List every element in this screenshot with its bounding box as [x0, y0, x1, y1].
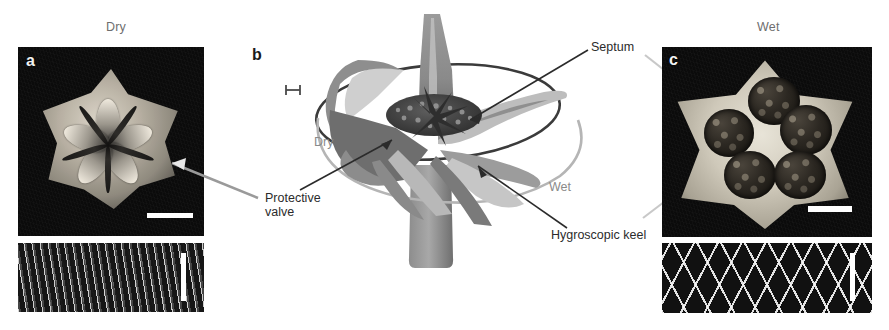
arm-upper-right-shadow — [438, 100, 548, 140]
seed-cluster — [386, 94, 482, 136]
arm-lower-right — [440, 150, 541, 188]
hygroscopic-keel-right — [446, 158, 524, 208]
diagram-state-label-dry: Dry — [314, 135, 333, 149]
seed-speckles — [396, 102, 472, 129]
diagram-scale-bar — [286, 85, 300, 95]
seed-pod — [704, 109, 754, 157]
arrowhead-hygroscopic-keel — [478, 166, 487, 178]
panel-c-photograph: c — [662, 47, 872, 237]
central-column — [418, 14, 455, 132]
column-title-dry: Dry — [106, 20, 126, 34]
valve-left-highlight — [340, 150, 398, 186]
arm-upper-right — [438, 91, 567, 144]
keel-upper-left — [345, 67, 404, 120]
panel-letter-a: a — [26, 53, 35, 69]
scale-bar — [181, 253, 186, 301]
keel-lower-left — [388, 150, 452, 216]
scale-bar — [808, 206, 852, 212]
callout-septum: Septum — [591, 40, 634, 54]
seed-pod — [724, 151, 776, 199]
panel-a-photograph: a — [18, 47, 204, 236]
arrowhead-protective-valve — [381, 140, 392, 150]
keel-right-shadow — [430, 156, 492, 226]
scale-bar — [147, 213, 193, 218]
column-highlight — [429, 18, 437, 126]
protective-valve-left — [329, 110, 428, 182]
star-centre — [412, 86, 468, 146]
stalk-shape — [409, 165, 453, 268]
seed-pod — [774, 151, 826, 199]
panel-letter-c: c — [669, 52, 678, 68]
wet-orbit-path — [318, 118, 582, 203]
keel-upper-left-shadow — [326, 60, 400, 136]
diagram-state-label-wet: Wet — [549, 180, 571, 194]
panel-a-sem-inset — [18, 243, 204, 312]
seed-pod — [780, 105, 832, 155]
callout-hygroscopic-keel: Hygroscopic keel — [551, 228, 646, 242]
column-title-wet: Wet — [757, 20, 780, 34]
scale-bar — [850, 253, 855, 301]
panel-letter-b: b — [252, 47, 262, 63]
arrowhead-septum — [470, 115, 481, 124]
dry-orbit-path — [313, 57, 563, 168]
leader-line-septum — [470, 50, 588, 120]
callout-protective-valve: Protective valve — [265, 191, 321, 219]
panel-c-sem-inset — [662, 243, 872, 313]
valve-suture — [105, 145, 111, 193]
keel-lower-left-shadow — [372, 160, 424, 220]
sem-mesh-texture — [662, 243, 872, 313]
leader-line-hygroscopic-keel — [478, 166, 567, 228]
figure-root: Dry Wet a b — [0, 0, 889, 330]
sem-fibrous-texture — [18, 243, 204, 312]
